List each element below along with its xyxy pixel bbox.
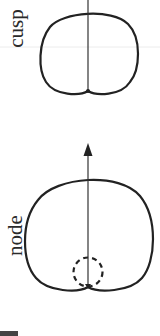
cropped-mark bbox=[0, 331, 18, 336]
node-panel bbox=[25, 143, 153, 290]
cusp-curve bbox=[40, 14, 138, 94]
diagram-canvas: cusp node bbox=[0, 0, 160, 336]
arrow-up-icon bbox=[84, 143, 93, 156]
node-curve bbox=[25, 180, 153, 291]
cusp-label: cusp bbox=[6, 7, 27, 51]
node-label: node bbox=[5, 213, 26, 259]
cusp-point bbox=[86, 89, 90, 93]
